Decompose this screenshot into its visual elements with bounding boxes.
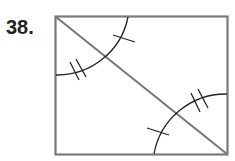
diagonal: [56, 17, 227, 154]
single-tick-mark: [113, 35, 135, 42]
single-tick-mark: [147, 128, 169, 135]
rectangle-diagonal-figure: [0, 0, 235, 161]
double-tick-mark: [76, 59, 86, 77]
double-tick-mark: [70, 62, 79, 80]
